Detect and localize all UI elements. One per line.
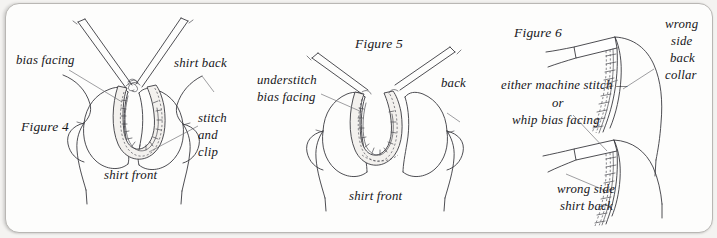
caption-figure-6: Figure 6	[514, 26, 562, 41]
label-understitch-fig5: understitch	[257, 74, 317, 88]
label-collar-fig6: collar	[665, 69, 697, 83]
label-back-fig5: back	[441, 77, 466, 91]
label-wrong-fig6: wrong	[665, 18, 698, 32]
label-clip-fig4: clip	[198, 146, 218, 160]
label-or-fig6: or	[552, 97, 564, 111]
illustration-page: .ln { fill:none; stroke:#3a3a40; stroke-…	[0, 0, 717, 238]
label-whip-bias-facing-fig6: whip bias facing	[512, 114, 600, 128]
label-shirt-front-fig4: shirt front	[104, 169, 157, 183]
label-shirt-back-fig6: shirt back	[560, 200, 613, 214]
label-back-fig6: back	[670, 52, 695, 66]
label-side-fig6: side	[671, 35, 692, 49]
caption-figure-5: Figure 5	[355, 37, 403, 52]
label-bias-facing-fig5: bias facing	[257, 91, 316, 105]
label-stitch-fig4: stitch	[198, 112, 227, 126]
label-shirt-front-fig5: shirt front	[349, 190, 402, 204]
label-shirt-back-fig4: shirt back	[174, 57, 227, 71]
label-either-machine-stitch-fig6: either machine stitch —	[501, 79, 628, 93]
label-and-fig4: and	[198, 129, 218, 143]
label-bias-facing-fig4: bias facing	[16, 54, 75, 68]
figure-6-drawing	[543, 37, 662, 226]
scanned-page-frame: .ln { fill:none; stroke:#3a3a40; stroke-…	[5, 3, 713, 233]
figure-5-drawing	[307, 47, 464, 211]
caption-figure-4: Figure 4	[21, 120, 69, 135]
label-wrong-side-fig6: wrong side	[557, 183, 615, 197]
